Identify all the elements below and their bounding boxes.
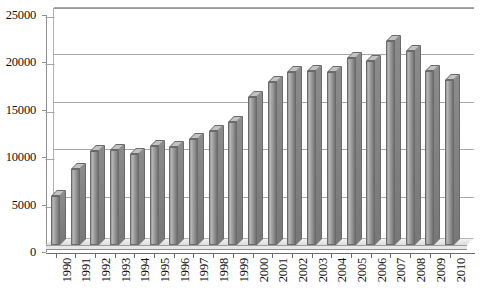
bar-front-face [209,131,218,245]
bar-side-face [336,66,342,245]
bar-side-face [415,45,421,245]
x-axis-tick-label: 1994 [139,258,151,282]
bar-front-face [228,122,237,245]
bar-chart: 0500010000150002000025000 19901991199219… [0,0,482,292]
bar-front-face [169,147,178,245]
bar-front-face [425,71,434,245]
y-axis-labels: 0500010000150002000025000 [0,0,41,292]
bar-2004 [327,72,336,245]
bar-side-face [60,190,66,245]
bar-side-face [296,66,302,245]
x-axis-tick-label: 1990 [61,258,73,282]
bar-1997 [189,139,198,245]
bar-front-face [327,72,336,245]
bar-front-face [189,139,198,245]
bar-2006 [366,61,375,245]
bar-1994 [130,154,139,245]
bar-front-face [445,80,454,245]
bar-2007 [386,41,395,245]
bar-front-face [110,150,119,245]
y-axis-tick-label: 10000 [6,151,36,163]
bar-2009 [425,71,434,245]
bar-side-face [99,145,105,245]
y-axis-tick-label: 5000 [12,199,36,211]
bar-side-face [237,116,243,245]
x-axis-tick-label: 1999 [238,258,250,282]
x-axis-tick-label: 1998 [218,258,230,282]
bar-1992 [90,151,99,245]
x-axis-tick-label: 2003 [317,258,329,282]
bar-1995 [150,146,159,245]
bar-front-face [366,61,375,245]
bar-front-face [71,169,80,245]
bar-1991 [71,169,80,245]
bar-1993 [110,150,119,245]
x-axis-tick-label: 2008 [415,258,427,282]
bar-front-face [347,58,356,245]
x-axis-tick-label: 2002 [297,258,309,282]
y-axis-tick-label: 20000 [6,56,36,68]
bar-side-face [257,91,263,245]
bar-2002 [287,72,296,245]
bar-2010 [445,80,454,245]
x-axis-tick-label: 1997 [198,258,210,282]
x-axis-tick-label: 1992 [100,258,112,282]
x-axis-tick-label: 2010 [455,258,467,282]
bar-side-face [178,141,184,245]
bar-side-face [454,74,460,245]
x-axis-tick-label: 2009 [435,258,447,282]
bar-side-face [316,65,322,245]
y-axis-tick-label: 25000 [6,9,36,21]
bar-2003 [307,71,316,245]
bar-side-face [139,148,145,245]
bar-2000 [248,97,257,245]
bar-side-face [434,65,440,245]
bar-front-face [248,97,257,245]
bar-side-face [277,76,283,245]
bar-2008 [406,51,415,245]
y-axis-tick-label: 15000 [6,104,36,116]
y-axis-tick-label: 0 [30,246,36,258]
plot-area [46,8,474,252]
x-axis-tick-label: 2007 [395,258,407,282]
bar-1996 [169,147,178,245]
bar-side-face [395,35,401,245]
bar-front-face [51,196,60,245]
x-axis-tick-label: 2005 [356,258,368,282]
bar-side-face [119,144,125,245]
x-axis-tick-label: 1996 [179,258,191,282]
bar-front-face [287,72,296,245]
bar-front-face [90,151,99,245]
bar-2001 [268,82,277,245]
bar-side-face [80,163,86,245]
bar-2005 [347,58,356,245]
x-axis-tick-label: 1993 [120,258,132,282]
bar-front-face [406,51,415,245]
bar-1999 [228,122,237,245]
bar-side-face [218,125,224,245]
bar-front-face [130,154,139,245]
x-axis-tick-label: 2000 [258,258,270,282]
bar-side-face [198,133,204,245]
bar-front-face [268,82,277,245]
x-axis-tick-label: 1991 [80,258,92,282]
x-axis-tick-label: 1995 [159,258,171,282]
x-axis-tick-label: 2004 [336,258,348,282]
bar-side-face [356,52,362,245]
x-axis-tick-label: 2006 [376,258,388,282]
bar-series [46,8,474,252]
bar-1990 [51,196,60,245]
bar-1998 [209,131,218,245]
bar-front-face [307,71,316,245]
bar-side-face [159,140,165,245]
x-axis-labels: 1990199119921993199419951996199719981999… [46,258,475,292]
bar-front-face [386,41,395,245]
bar-front-face [150,146,159,245]
bar-side-face [375,55,381,245]
x-axis-tick-label: 2001 [277,258,289,282]
